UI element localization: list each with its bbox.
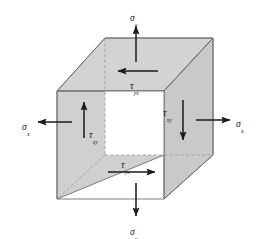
cube-front-face [105,91,164,155]
tau-xy-right-subscript: xy [167,117,172,123]
tau-xy-left-label: τxy [89,125,97,144]
sigma-x-right-symbol: σ [236,119,241,129]
sigma-y-bottom-label: σy [130,222,137,239]
sigma-x-left-symbol: σ [22,122,27,132]
sigma-y-bottom-symbol: σ [130,227,135,237]
tau-xy-left-subscript: xy [93,139,98,145]
sigma-x-left-label: σx [22,117,29,135]
sigma-y-top-label: σy [130,8,137,26]
stress-cube-drawing [0,0,265,239]
cube-faces [57,38,213,199]
tau-xy-right-label: τxy [163,103,171,122]
sigma-x-right-label: σx [236,114,243,132]
tau-yx-top-label: τyx [130,76,138,95]
sigma-y-top-symbol: σ [130,13,135,23]
sigma-y-bottom-subscript: y [135,236,138,239]
stress-element-figure: σy σy σx σx τyx τyx τxy τxy [0,0,265,239]
tau-yx-bottom-subscript: yx [125,169,130,175]
tau-yx-top-subscript: yx [134,90,139,96]
tau-yx-bottom-label: τyx [121,155,129,174]
